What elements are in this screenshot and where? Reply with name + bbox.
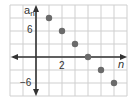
data-point	[98, 67, 104, 73]
x-tick-label-2: 2	[59, 60, 65, 71]
sequence-scatter-plot: an n 2 6 −6	[0, 0, 135, 108]
data-point	[111, 80, 117, 86]
y-tick-label-6: 6	[27, 24, 33, 35]
data-point	[72, 41, 78, 47]
x-axis-label: n	[118, 58, 124, 70]
data-point	[85, 54, 91, 60]
data-point	[46, 15, 52, 21]
data-point	[59, 28, 65, 34]
y-tick-label-neg6: −6	[20, 77, 32, 88]
y-axis-down-arrow-icon	[33, 89, 39, 96]
y-axis-label: an	[24, 4, 35, 18]
data-points	[46, 15, 117, 86]
x-axis-left-arrow-icon	[11, 54, 18, 60]
